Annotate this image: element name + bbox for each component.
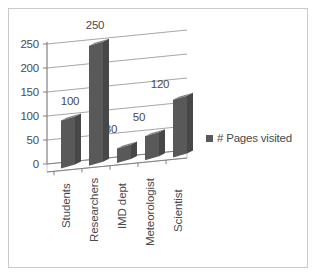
bar-scientist[interactable] <box>173 93 193 158</box>
x-category-label-researchers: Researchers <box>88 178 100 242</box>
data-label-researchers: 250 <box>78 19 112 31</box>
y-axis <box>43 42 47 164</box>
y-tick-label-150: 150 <box>9 86 39 98</box>
data-label-imd-dept: 30 <box>94 123 128 135</box>
x-category-label-students: Students <box>60 183 72 228</box>
chart-legend: # Pages visited <box>206 132 292 144</box>
y-tick-label-0: 0 <box>9 158 39 170</box>
y-tick-label-50: 50 <box>9 134 39 146</box>
legend-label-pages-visited: # Pages visited <box>217 132 292 144</box>
bar-students[interactable] <box>61 114 81 169</box>
legend-swatch-icon <box>206 135 213 142</box>
y-tick-label-250: 250 <box>9 38 39 50</box>
y-tick-label-200: 200 <box>9 62 39 74</box>
x-category-label-scientist: Scientist <box>172 189 184 232</box>
data-label-meteorologist: 50 <box>122 111 156 123</box>
x-category-label-meteorologist: Meteorologist <box>144 178 156 246</box>
x-category-label-imd-dept: IMD dept <box>116 183 128 229</box>
data-label-students: 100 <box>53 95 87 107</box>
data-label-scientist: 120 <box>143 78 177 90</box>
y-tick-label-100: 100 <box>9 110 39 122</box>
bar-researchers[interactable] <box>89 39 109 166</box>
